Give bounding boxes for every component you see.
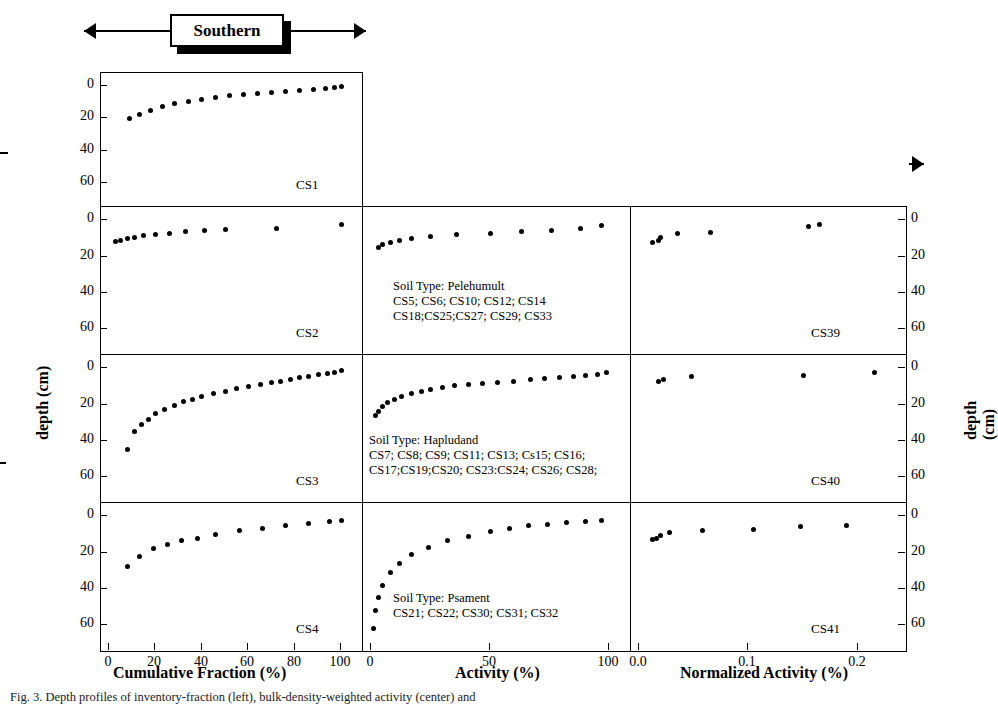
data-point <box>269 90 274 95</box>
axis-tick <box>100 624 107 625</box>
data-point <box>153 411 158 416</box>
axis-tick-label: 80 <box>287 654 301 670</box>
axis-tick <box>898 404 905 405</box>
axis-tick <box>898 515 905 516</box>
data-point <box>125 447 130 452</box>
grid-blank-region <box>364 72 909 206</box>
axis-tick <box>898 292 905 293</box>
axis-tick-label: 20 <box>80 108 94 124</box>
data-point <box>137 112 142 117</box>
data-point <box>388 240 393 245</box>
panel-r1-c0: CS2 <box>101 207 363 355</box>
data-point <box>339 84 344 89</box>
data-point <box>844 523 849 528</box>
data-point <box>323 86 328 91</box>
soil-type-note: Soil Type: Pelehumult CS5; CS6; CS10; CS… <box>393 279 552 324</box>
axis-tick <box>100 328 107 329</box>
axis-tick-label: 100 <box>330 654 351 670</box>
soil-type-note: Soil Type: Psament CS21; CS22; CS30; CS3… <box>393 591 558 621</box>
axis-tick-label: 0 <box>911 210 918 226</box>
axis-tick <box>100 256 107 257</box>
grid-blank-edge <box>363 72 908 74</box>
axis-tick <box>898 440 905 441</box>
axis-tick <box>100 182 107 183</box>
axis-tick-label: 40 <box>194 654 208 670</box>
data-point <box>399 394 404 399</box>
data-point <box>397 561 402 566</box>
axis-tick <box>100 515 107 516</box>
axis-tick-label: 0 <box>911 358 918 374</box>
data-point <box>519 229 524 234</box>
data-point <box>260 526 265 531</box>
panel-label: CS40 <box>811 473 840 489</box>
data-point <box>571 374 576 379</box>
data-point <box>167 231 172 236</box>
y-axis-title-right: depth (cm) <box>962 401 998 440</box>
data-point <box>578 226 583 231</box>
axis-tick <box>294 643 295 650</box>
panel-label: CS3 <box>296 473 318 489</box>
data-point <box>604 370 609 375</box>
data-point <box>511 379 516 384</box>
data-point <box>454 232 459 237</box>
data-point <box>542 376 547 381</box>
data-point <box>269 380 274 385</box>
data-point <box>409 236 414 241</box>
data-point <box>428 234 433 239</box>
axis-tick-label: 0 <box>87 76 94 92</box>
data-point <box>246 384 251 389</box>
data-point <box>376 409 381 414</box>
data-point <box>118 238 123 243</box>
axis-tick-label: 40 <box>80 431 94 447</box>
axis-tick <box>100 552 107 553</box>
data-point <box>661 377 666 382</box>
axis-tick <box>340 643 341 650</box>
panel-label: CS2 <box>296 325 318 341</box>
data-point <box>153 232 158 237</box>
data-point <box>488 231 493 236</box>
axis-tick-label: 40 <box>80 141 94 157</box>
data-point <box>507 526 512 531</box>
axis-tick-label: 60 <box>911 467 925 483</box>
data-point <box>564 520 569 525</box>
panel-r2-c2: CS40 <box>631 355 906 503</box>
data-point <box>667 530 672 535</box>
axis-tick-label: 100 <box>598 654 619 670</box>
data-point <box>234 386 239 391</box>
data-point <box>380 242 385 247</box>
data-point <box>132 235 137 240</box>
data-point <box>545 522 550 527</box>
arrow-left-icon <box>84 23 96 39</box>
data-point <box>297 88 302 93</box>
axis-tick <box>747 643 748 650</box>
axis-tick-label: 60 <box>911 319 925 335</box>
data-point <box>127 116 132 121</box>
panel-label: CS39 <box>811 325 840 341</box>
data-point <box>274 226 279 231</box>
data-point <box>146 417 151 422</box>
axis-tick <box>857 643 858 650</box>
data-point <box>190 397 195 402</box>
data-point <box>311 87 316 92</box>
data-point <box>392 397 397 402</box>
data-point <box>583 519 588 524</box>
panel-label: CS41 <box>811 621 840 637</box>
scan-artifact <box>0 152 8 154</box>
data-point <box>165 542 170 547</box>
data-point <box>480 381 485 386</box>
axis-tick-label: 0.2 <box>848 654 866 670</box>
data-point <box>689 374 694 379</box>
axis-tick <box>100 117 107 118</box>
axis-tick-label: 60 <box>80 319 94 335</box>
data-point <box>332 370 337 375</box>
axis-tick <box>100 367 107 368</box>
axis-tick-label: 20 <box>911 247 925 263</box>
data-point <box>213 532 218 537</box>
panel-r2-c1: Soil Type: Hapludand CS7; CS8; CS9; CS11… <box>363 355 631 503</box>
axis-tick <box>100 588 107 589</box>
axis-tick <box>100 476 107 477</box>
data-point <box>658 235 663 240</box>
data-point <box>801 373 806 378</box>
panel-label: CS1 <box>296 177 318 193</box>
data-point <box>440 385 445 390</box>
